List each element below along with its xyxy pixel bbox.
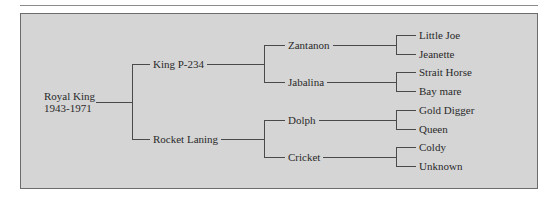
coldy-connector [396,147,416,148]
cricket-dam-name: Unknown [416,160,465,173]
jabalina-dam-name: Bay mare [416,85,464,98]
zantanon-sire-name: Little Joe [416,29,463,42]
dam-dam-name: Cricket [285,151,323,164]
gen2-sire-bracket [264,45,265,83]
sire-sire-name: Zantanon [285,39,333,52]
jeanette-connector [396,54,416,55]
dolph-sire-name: Gold Digger [416,104,477,117]
unknown-connector [396,166,416,167]
little-joe-connector [396,35,416,36]
queen-connector [396,129,416,130]
root-horse: Royal King 1943-1971 [44,90,95,114]
dam-sire-name: Dolph [285,114,319,127]
gold-digger-connector [396,110,416,111]
sire-dam-name: Jabalina [285,76,327,89]
bay-mare-connector [396,91,416,92]
gen1-bracket [132,64,133,140]
strait-horse-connector [396,72,416,73]
dolph-dam-name: Queen [416,123,451,136]
zantanon-bracket [396,35,397,55]
jabalina-connector [264,82,396,83]
zantanon-dam-name: Jeanette [416,48,457,61]
root-horse-name: Royal King [44,90,95,102]
dolph-connector [264,120,396,121]
root-horse-years: 1943-1971 [44,102,95,114]
pedigree-tree: Royal King 1943-1971 King P-234 Rocket L… [0,0,558,198]
cricket-connector [264,157,396,158]
root-connector [96,102,133,103]
cricket-sire-name: Coldy [416,141,449,154]
dam-name: Rocket Laning [150,133,221,146]
cricket-bracket [396,147,397,167]
sire-name: King P-234 [150,58,207,71]
dolph-bracket [396,110,397,130]
jabalina-sire-name: Strait Horse [416,66,475,79]
gen2-dam-bracket [264,120,265,158]
jabalina-bracket [396,72,397,92]
